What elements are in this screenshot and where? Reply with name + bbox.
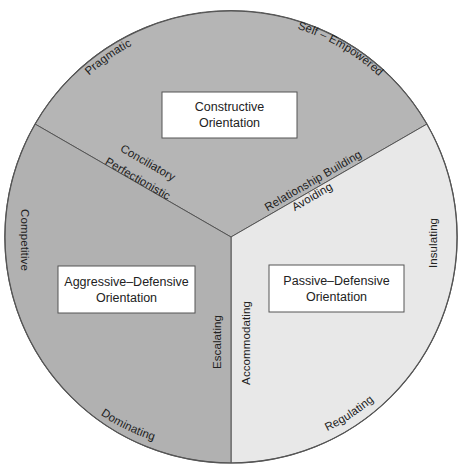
- style-label-accommodating: Accommodating: [240, 301, 252, 385]
- constructive-box: [162, 92, 297, 138]
- passive-defensive-title-line2: Orientation: [306, 290, 367, 304]
- aggressive-defensive-title-line2: Orientation: [96, 291, 157, 305]
- aggressive-defensive-title-line1: Aggressive–Defensive: [64, 275, 188, 289]
- aggressive-defensive-box: [58, 266, 195, 313]
- passive-defensive-title-line1: Passive–Defensive: [283, 274, 389, 288]
- style-label-insulating: Insulating: [427, 218, 439, 268]
- constructive-title-line1: Constructive: [195, 100, 265, 114]
- style-label-escalating: Escalating: [211, 315, 223, 369]
- passive-defensive-box: [269, 265, 404, 312]
- orientation-circle-diagram: Constructive Orientation Aggressive–Defe…: [0, 0, 458, 464]
- style-label-competitive: Competitive: [19, 209, 31, 271]
- constructive-title-line2: Orientation: [199, 116, 260, 130]
